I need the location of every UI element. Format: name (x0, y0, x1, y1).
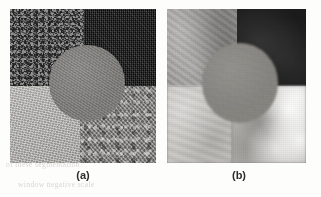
panel-a-image (10, 9, 156, 163)
caption-panel-a: (a) (52, 169, 114, 181)
caption-panel-b: (b) (208, 169, 270, 181)
central-gray-disc-b (202, 43, 278, 123)
panel-b-image (167, 9, 306, 163)
central-gray-disc-a (49, 45, 125, 120)
figure: (a) (b) (0, 0, 321, 197)
